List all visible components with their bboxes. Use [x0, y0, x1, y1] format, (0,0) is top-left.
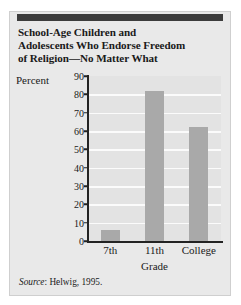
y-tick-label: 80 [60, 89, 84, 100]
y-tick-label: 70 [60, 107, 84, 118]
plot-area [88, 76, 221, 241]
y-axis-tick-labels: 9080706050403020100 [60, 76, 84, 241]
y-tick-label: 10 [60, 217, 84, 228]
y-tick-mark [84, 149, 87, 151]
y-tick-mark [84, 240, 87, 242]
y-tick-mark [84, 167, 87, 169]
y-tick-label: 50 [60, 144, 84, 155]
bar-college [189, 127, 208, 241]
figure-panel: School-Age Children and Adolescents Who … [9, 11, 231, 296]
y-tick-label: 60 [60, 126, 84, 137]
y-tick-mark [84, 75, 87, 77]
y-tick-label: 30 [60, 181, 84, 192]
y-tick-label: 0 [60, 236, 84, 247]
y-tick-mark [84, 94, 87, 96]
x-axis-line [87, 241, 223, 243]
y-tick-mark [84, 222, 87, 224]
y-tick-label: 20 [60, 199, 84, 210]
x-tick-label-7th: 7th [103, 244, 117, 256]
y-tick-mark [84, 130, 87, 132]
source-prefix: Source [19, 277, 44, 287]
y-axis-line [87, 75, 89, 242]
bar-7th [101, 230, 120, 241]
plot-wrapper: 9080706050403020100 7th11thCollege Grade [10, 12, 232, 297]
y-tick-label: 90 [60, 71, 84, 82]
x-axis-tick-labels: 7th11thCollege [88, 244, 221, 260]
source-citation: Helwig, 1995. [49, 277, 102, 287]
bar-11th [145, 91, 164, 241]
x-tick-label-college: College [182, 244, 216, 256]
y-tick-mark [84, 112, 87, 114]
y-tick-mark [84, 185, 87, 187]
y-tick-mark [84, 204, 87, 206]
source-note: Source: Helwig, 1995. [19, 277, 102, 287]
x-tick-label-11th: 11th [145, 244, 164, 256]
x-axis-label: Grade [88, 260, 221, 272]
y-tick-label: 40 [60, 162, 84, 173]
